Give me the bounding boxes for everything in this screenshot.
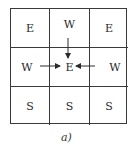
cell-label: E xyxy=(26,23,34,34)
cell-r0-c1: W xyxy=(50,9,90,48)
cell-r1-c2: W xyxy=(90,48,128,87)
cell-label: W xyxy=(64,19,75,30)
cell-label: S xyxy=(26,101,34,112)
cell-r0-c0: E xyxy=(11,9,50,48)
cell-label: S xyxy=(105,101,113,112)
cell-r1-c1-center: E xyxy=(50,48,90,87)
cell-label: W xyxy=(21,62,32,73)
cell-label: S xyxy=(66,101,74,112)
state-grid: E W E W E W S S S xyxy=(10,8,127,124)
cell-label: E xyxy=(105,23,113,34)
figure-caption: a) xyxy=(0,131,133,144)
cell-r1-c0: W xyxy=(11,48,50,87)
cell-r2-c2: S xyxy=(90,87,128,125)
cell-r0-c2: E xyxy=(90,9,128,48)
cell-r2-c1: S xyxy=(50,87,90,125)
cell-r2-c0: S xyxy=(11,87,50,125)
cell-label: W xyxy=(109,62,120,73)
cell-label: E xyxy=(65,62,73,73)
